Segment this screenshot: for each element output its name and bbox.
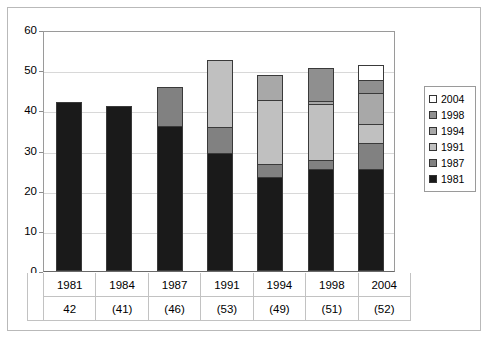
x-axis-table-column: 1991(53): [201, 273, 253, 320]
bar-segment[interactable]: [358, 169, 384, 271]
bar-segment[interactable]: [106, 106, 132, 271]
x-axis-category-label: 1984: [96, 273, 147, 297]
legend-label: 1987: [441, 158, 464, 169]
x-axis-total-label: (41): [96, 297, 147, 320]
bar-column[interactable]: [358, 32, 384, 271]
legend-label: 1981: [441, 174, 464, 185]
bar-column[interactable]: [207, 32, 233, 271]
bar-stack: [308, 68, 334, 271]
bar-segment[interactable]: [358, 80, 384, 94]
plot-area: [43, 31, 395, 272]
x-axis-total-label: (46): [149, 297, 200, 320]
bar-segment[interactable]: [157, 126, 183, 271]
x-axis-total-label: 42: [44, 297, 95, 320]
legend-swatch-icon: [429, 143, 437, 151]
bar-segment[interactable]: [308, 169, 334, 271]
x-axis-table-column: 198142: [44, 273, 96, 320]
bar-segment[interactable]: [207, 60, 233, 128]
x-axis-total-label: (53): [201, 297, 252, 320]
x-axis-table-columns: 1981421984(41)1987(46)1991(53)1994(49)19…: [44, 273, 410, 320]
legend-item[interactable]: 1998: [429, 107, 472, 123]
legend-swatch-icon: [429, 175, 437, 183]
bar-column[interactable]: [106, 32, 132, 271]
bar-segment[interactable]: [207, 153, 233, 271]
x-axis-total-label: (49): [254, 297, 305, 320]
bar-segment[interactable]: [308, 68, 334, 102]
legend-swatch-icon: [429, 127, 437, 135]
legend-label: 1994: [441, 126, 464, 137]
bar-segment[interactable]: [358, 93, 384, 125]
legend-item[interactable]: 1981: [429, 171, 472, 187]
y-axis-label: 40: [1, 106, 37, 118]
x-axis-category-label: 1981: [44, 273, 95, 297]
x-axis-category-label: 1994: [254, 273, 305, 297]
x-axis-table-lead-cell: [28, 273, 44, 320]
bar-stack: [207, 60, 233, 271]
x-axis-category-label: 1998: [306, 273, 357, 297]
x-axis-table: 1981421984(41)1987(46)1991(53)1994(49)19…: [27, 273, 411, 321]
x-axis-category-label: 1987: [149, 273, 200, 297]
bar-segment[interactable]: [56, 102, 82, 271]
bar-stack: [157, 87, 183, 271]
bar-segment[interactable]: [257, 164, 283, 178]
y-axis-label: 60: [1, 25, 37, 37]
legend-label: 2004: [441, 94, 464, 105]
bar-segment[interactable]: [358, 65, 384, 81]
bar-segment[interactable]: [157, 87, 183, 127]
bar-stack: [106, 106, 132, 271]
bar-segment[interactable]: [257, 75, 283, 101]
bar-column[interactable]: [257, 32, 283, 271]
bar-stack: [56, 102, 82, 271]
y-axis-label: 20: [1, 186, 37, 198]
bars-layer: [44, 32, 394, 271]
legend-label: 1991: [441, 142, 464, 153]
y-axis-label: 10: [1, 226, 37, 238]
legend-item[interactable]: 2004: [429, 91, 472, 107]
legend: 200419981994199119871981: [424, 86, 476, 192]
x-axis-table-column: 2004(52): [359, 273, 410, 320]
x-axis-category-label: 1991: [201, 273, 252, 297]
x-axis-table-column: 1984(41): [96, 273, 148, 320]
bar-segment[interactable]: [358, 143, 384, 169]
bar-column[interactable]: [157, 32, 183, 271]
bar-segment[interactable]: [308, 104, 334, 160]
legend-item[interactable]: 1994: [429, 123, 472, 139]
legend-swatch-icon: [429, 95, 437, 103]
legend-label: 1998: [441, 110, 464, 121]
bar-segment[interactable]: [207, 127, 233, 153]
bar-segment[interactable]: [257, 100, 283, 164]
x-axis-table-column: 1987(46): [149, 273, 201, 320]
bar-stack: [358, 65, 384, 271]
legend-swatch-icon: [429, 111, 437, 119]
stacked-bar-chart: 0102030405060 1981421984(41)1987(46)1991…: [0, 0, 489, 340]
legend-item[interactable]: 1987: [429, 155, 472, 171]
x-axis-category-label: 2004: [359, 273, 410, 297]
x-axis-table-column: 1994(49): [254, 273, 306, 320]
x-axis-total-label: (52): [359, 297, 410, 320]
bar-column[interactable]: [56, 32, 82, 271]
legend-swatch-icon: [429, 159, 437, 167]
x-axis-total-label: (51): [306, 297, 357, 320]
bar-segment[interactable]: [257, 177, 283, 271]
legend-item[interactable]: 1991: [429, 139, 472, 155]
x-axis-table-column: 1998(51): [306, 273, 358, 320]
bar-segment[interactable]: [358, 124, 384, 144]
y-axis-label: 50: [1, 65, 37, 77]
plot-area-wrapper: [43, 31, 395, 272]
bar-stack: [257, 75, 283, 271]
bar-column[interactable]: [308, 32, 334, 271]
y-axis-label: 30: [1, 146, 37, 158]
